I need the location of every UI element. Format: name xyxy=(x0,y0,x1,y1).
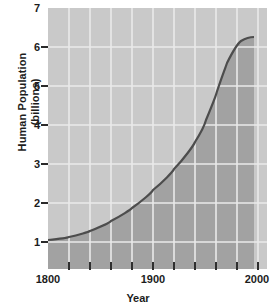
y-tick-label-5: 5 xyxy=(14,81,40,92)
y-tick-label-2: 2 xyxy=(14,198,40,209)
x-tick-mark-1940 xyxy=(194,262,196,270)
y-tick-label-4: 4 xyxy=(14,120,40,131)
y-tick-mark-6 xyxy=(41,46,48,48)
population-growth-chart: Human Population (billions) 7 6 5 4 3 2 … xyxy=(0,0,276,308)
x-axis-title: Year xyxy=(0,292,276,304)
y-tick-mark-1 xyxy=(41,241,48,243)
x-tick-mark-1960 xyxy=(215,262,217,270)
x-tick-mark-1880 xyxy=(131,262,133,270)
x-tick-label-2000: 2000 xyxy=(234,274,276,285)
x-tick-mark-1820 xyxy=(68,262,70,270)
x-tick-label-1800: 1800 xyxy=(25,274,71,285)
y-tick-mark-2 xyxy=(41,202,48,204)
y-tick-mark-4 xyxy=(41,124,48,126)
y-tick-label-7: 7 xyxy=(14,3,40,14)
x-tick-mark-1980 xyxy=(236,262,238,270)
plot-area xyxy=(48,8,267,269)
y-tick-label-6: 6 xyxy=(14,42,40,53)
x-tick-label-1900: 1900 xyxy=(130,274,176,285)
y-tick-label-3: 3 xyxy=(14,159,40,170)
y-tick-label-1: 1 xyxy=(14,237,40,248)
y-axis-title-line1: Human Population xyxy=(16,53,29,152)
y-tick-mark-5 xyxy=(41,85,48,87)
x-tick-mark-1920 xyxy=(173,262,175,270)
y-tick-mark-3 xyxy=(41,163,48,165)
x-tick-mark-1900 xyxy=(152,262,154,270)
x-tick-mark-1840 xyxy=(89,262,91,270)
x-tick-mark-2000 xyxy=(257,262,259,270)
x-tick-mark-1860 xyxy=(110,262,112,270)
